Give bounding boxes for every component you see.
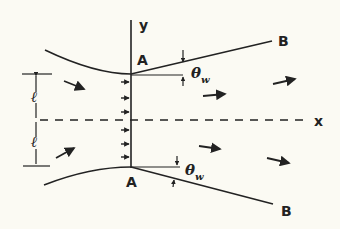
flow-arrow-upper-right [273, 79, 295, 84]
flow-arrow-lower-mid [199, 146, 220, 149]
flow-arrow-lower-right [267, 158, 289, 163]
point-b-top-label: B [278, 33, 289, 49]
point-a-top-label: A [137, 52, 148, 68]
lower-wall-curve [44, 167, 131, 185]
half-width-label-top: ℓ [31, 88, 37, 106]
theta-arrow-lower-2 [173, 180, 174, 187]
upper-wall-line [131, 41, 272, 74]
half-width-label-bottom: ℓ [31, 133, 37, 151]
theta-w-lower-label: θw [185, 161, 204, 182]
y-axis-label: y [139, 17, 148, 33]
theta-w-upper-label: θw [191, 64, 210, 85]
flow-arrow-upper-mid [203, 94, 225, 96]
point-b-bottom-label: B [281, 203, 292, 219]
nozzle-flow-diagram: y x A A B B θw θw ℓ ℓ [0, 0, 340, 229]
upper-wall-curve [45, 50, 131, 74]
flow-arrow-lower-left [56, 148, 74, 158]
point-a-bottom-label: A [126, 174, 137, 190]
x-axis-label: x [314, 113, 323, 129]
flow-arrow-upper-left [64, 81, 84, 89]
